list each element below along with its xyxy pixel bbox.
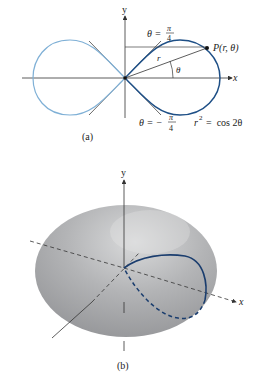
svg-text:π: π: [167, 24, 172, 33]
angle-label: θ: [176, 65, 181, 75]
x-axis-label-b: x: [238, 296, 244, 307]
lemniscate-left-loop: [33, 40, 125, 115]
svg-text:θ = −: θ = −: [139, 117, 162, 128]
svg-text:θ =: θ =: [147, 28, 161, 39]
y-axis-label-b: y: [121, 167, 126, 178]
svg-text:4: 4: [167, 34, 171, 43]
radius-label: r: [157, 53, 161, 63]
tangent-upper-label: θ = π 4: [147, 24, 174, 43]
svg-text:4: 4: [169, 124, 173, 133]
origin-dot: [123, 76, 127, 80]
figure-b: y x (b): [30, 167, 244, 372]
caption-b: (b): [117, 360, 129, 372]
lemniscate-right-loop: [125, 40, 220, 115]
tangent-lower-label: θ = − π 4: [139, 113, 176, 133]
svg-text:r: r: [194, 117, 198, 128]
svg-text:= cos 2θ: = cos 2θ: [206, 117, 242, 128]
figure-a: y x P(r, θ) r θ θ = π 4 θ = − π 4 r 2 = …: [22, 4, 242, 143]
x-axis-label: x: [232, 72, 238, 83]
angle-arc: [170, 61, 173, 78]
y-axis-label: y: [122, 4, 127, 15]
radius-line: [125, 48, 207, 78]
equation-label: r 2 = cos 2θ: [194, 114, 242, 128]
point-label: P(r, θ): [212, 42, 239, 54]
point-p: [205, 46, 209, 50]
caption-a: (a): [82, 131, 93, 143]
svg-text:2: 2: [199, 114, 203, 122]
figure-canvas: y x P(r, θ) r θ θ = π 4 θ = − π 4 r 2 = …: [0, 0, 265, 386]
